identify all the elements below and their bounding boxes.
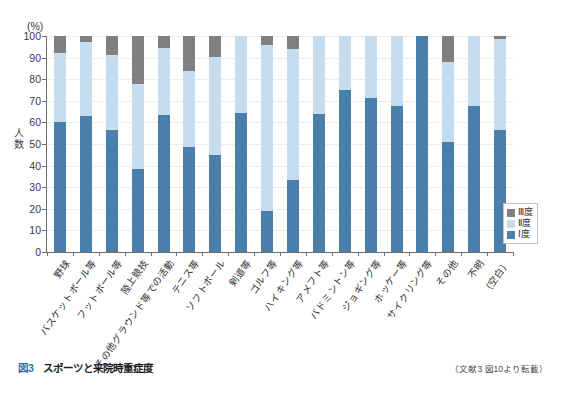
legend-color-swatch [507,231,515,239]
y-axis-tick-label: 60 [15,117,41,127]
bar-column[interactable] [287,36,299,252]
bar-column[interactable] [313,36,325,252]
x-axis-tick-mark [228,252,229,256]
y-axis-tick-mark [42,58,47,59]
bar-segment [339,36,351,90]
bar-segment [158,115,170,252]
bar-segment [235,113,247,252]
bar-column[interactable] [183,36,195,252]
bar-segment [132,36,144,84]
chart-legend: Ⅲ度Ⅱ度Ⅰ度 [503,203,538,244]
bar-segment [468,36,480,106]
y-axis-tick-label: 80 [15,74,41,84]
legend-label: Ⅱ度 [518,219,531,228]
bar-segment [494,39,506,130]
figure-number: 図3 [18,360,34,375]
legend-item[interactable]: Ⅰ度 [507,229,533,240]
legend-label: Ⅰ度 [518,230,530,239]
figure-container: (%) 人数 0102030405060708090100 Ⅲ度Ⅱ度Ⅰ度 図3 … [0,0,566,399]
x-axis-category-label: 野球 [52,258,72,280]
y-axis-tick-label: 50 [15,139,41,149]
y-axis-tick-mark [42,101,47,102]
bar-segment [468,106,480,252]
y-axis-tick-label: 40 [15,161,41,171]
y-axis-tick-label: 90 [15,53,41,63]
y-axis-tick-mark [42,144,47,145]
bar-segment [209,57,221,155]
x-axis-tick-mark [125,252,126,256]
bar-segment [287,49,299,180]
y-axis-tick-label: 100 [15,31,41,41]
x-axis-tick-mark [176,252,177,256]
bar-segment [183,71,195,148]
bar-segment [442,62,454,142]
bar-segment [391,36,403,106]
bar-segment [494,36,506,39]
x-axis-tick-mark [435,252,436,256]
legend-color-swatch [507,209,515,217]
bar-segment [106,130,118,252]
y-axis-tick-mark [42,187,47,188]
y-axis-tick-label: 70 [15,96,41,106]
bar-column[interactable] [339,36,351,252]
bar-segment [261,211,273,252]
legend-item[interactable]: Ⅱ度 [507,218,533,229]
legend-color-swatch [507,220,515,228]
x-axis-tick-mark [513,252,514,256]
bar-segment [209,155,221,252]
bar-segment [261,45,273,211]
bar-segment [442,142,454,252]
x-axis-category-label: 不明 [467,258,487,280]
bar-column[interactable] [391,36,403,252]
bar-column[interactable] [54,36,66,252]
bar-column[interactable] [442,36,454,252]
bar-column[interactable] [158,36,170,252]
bar-segment [158,36,170,48]
bar-segment [183,36,195,71]
x-axis-tick-mark [461,252,462,256]
y-axis-tick-mark [42,79,47,80]
bar-segment [158,48,170,115]
bar-segment [54,36,66,53]
bar-segment [365,98,377,252]
x-axis-tick-mark [99,252,100,256]
caption-main: 図3 スポーツと来院時重症度 [18,360,153,375]
bar-segment [391,106,403,252]
bar-column[interactable] [416,36,428,252]
y-axis-tick-mark [42,230,47,231]
y-axis-tick-label: 0 [15,247,41,257]
x-axis-category-label: 剣道等 [228,258,253,288]
bar-column[interactable] [80,36,92,252]
bar-column[interactable] [209,36,221,252]
plot-area [47,36,513,252]
x-axis-tick-mark [202,252,203,256]
bar-column[interactable] [132,36,144,252]
y-axis-tick-mark [42,166,47,167]
bar-column[interactable] [235,36,247,252]
x-axis-tick-mark [306,252,307,256]
bar-segment [183,147,195,252]
bar-segment [106,55,118,130]
bar-segment [313,36,325,114]
bar-column[interactable] [261,36,273,252]
x-axis-tick-mark [332,252,333,256]
bar-segment [54,53,66,122]
bar-segment [80,36,92,42]
bar-segment [54,122,66,252]
bar-column[interactable] [106,36,118,252]
bar-segment [106,36,118,55]
y-axis-tick-mark [42,209,47,210]
figure-source: （文献3 図10より転載） [450,362,548,374]
y-axis-tick-mark [42,36,47,37]
bar-segment [442,36,454,62]
y-axis-tick-mark [42,122,47,123]
bar-segment [261,36,273,45]
x-axis-tick-mark [409,252,410,256]
x-axis-tick-mark [151,252,152,256]
bar-column[interactable] [365,36,377,252]
bar-column[interactable] [468,36,480,252]
y-axis-tick-label: 10 [15,225,41,235]
legend-item[interactable]: Ⅲ度 [507,207,533,218]
bar-segment [416,36,428,252]
y-axis-tick-label: 20 [15,204,41,214]
